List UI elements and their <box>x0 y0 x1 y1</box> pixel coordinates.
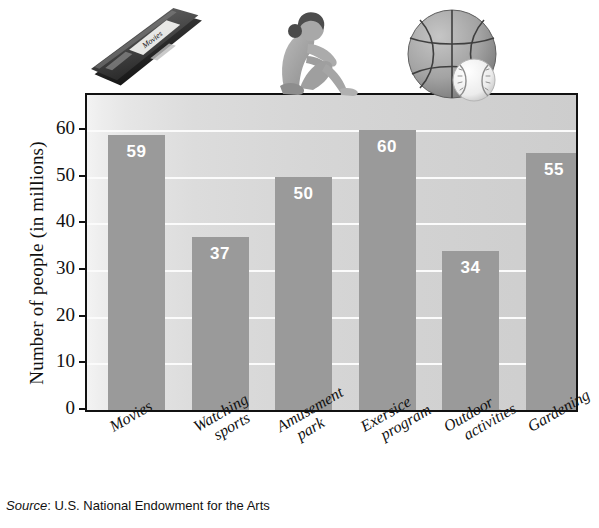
bar: 60 <box>359 130 416 410</box>
bar-value-label: 55 <box>526 160 579 180</box>
bar: 34 <box>442 251 499 410</box>
bar: 37 <box>192 237 249 410</box>
y-tick-label: 50 <box>35 164 75 186</box>
basketball-baseball-icon <box>398 2 530 102</box>
y-tick-label: 30 <box>35 257 75 279</box>
bar-value-label: 34 <box>442 258 499 278</box>
y-tick-label: 40 <box>35 210 75 232</box>
person-situp-icon <box>258 0 362 97</box>
source-text: U.S. National Endowment for the Arts <box>51 498 270 513</box>
bar-chart-figure: Number of people (in millions) 010203040… <box>0 0 599 528</box>
y-tick-label: 0 <box>35 397 75 419</box>
bar-value-label: 59 <box>108 142 165 162</box>
bar: 55 <box>526 153 579 410</box>
gridline-60 <box>87 130 576 132</box>
source-label: Source <box>6 498 47 513</box>
bar: 50 <box>275 177 332 410</box>
y-tick-label: 60 <box>35 117 75 139</box>
source-note: Source: U.S. National Endowment for the … <box>6 498 270 513</box>
bar-value-label: 37 <box>192 244 249 264</box>
bar-value-label: 60 <box>359 137 416 157</box>
bar: 59 <box>108 135 165 410</box>
bar-value-label: 50 <box>275 184 332 204</box>
plot-area: 593750603455 <box>85 93 578 412</box>
y-tick-label: 10 <box>35 350 75 372</box>
y-tick-label: 20 <box>35 304 75 326</box>
